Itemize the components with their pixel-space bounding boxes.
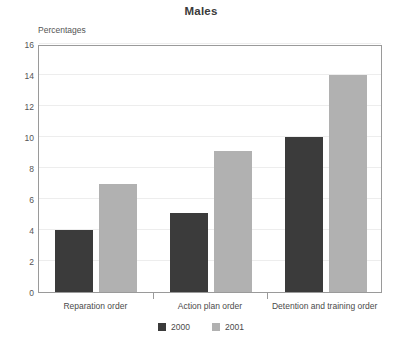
x-axis-tick: [267, 293, 268, 299]
y-axis-tick-label: 12: [4, 102, 34, 112]
y-axis-tick-label: 6: [4, 195, 34, 205]
bar-2001-2: [329, 75, 367, 292]
bar-2001-0: [99, 184, 137, 293]
y-axis-tick-label: 2: [4, 257, 34, 267]
legend-label: 2000: [171, 322, 190, 332]
y-axis-tick-labels: 0246810121416: [0, 45, 34, 293]
bar-2000-2: [285, 137, 323, 292]
y-axis-tick-label: 8: [4, 164, 34, 174]
chart-legend: 20002001: [0, 322, 402, 332]
x-axis-category-label: Detention and training order: [272, 301, 377, 311]
bar-2000-0: [55, 230, 93, 292]
legend-swatch-icon: [158, 323, 166, 331]
chart-title: Males: [0, 5, 402, 17]
y-axis-tick-label: 10: [4, 133, 34, 143]
y-axis-tick-label: 14: [4, 71, 34, 81]
x-axis-category-label: Action plan order: [178, 301, 242, 311]
bar-chart: Males Percentages 0246810121416 Reparati…: [0, 0, 402, 345]
y-axis-tick-label: 0: [4, 288, 34, 298]
x-axis-tick: [153, 293, 154, 299]
legend-item[interactable]: 2001: [212, 322, 244, 332]
bar-2000-1: [170, 213, 208, 292]
y-axis-tick-label: 16: [4, 40, 34, 50]
bar-2001-1: [214, 151, 252, 292]
y-axis-unit-label: Percentages: [38, 25, 86, 35]
x-axis-category-label: Reparation order: [63, 301, 127, 311]
legend-item[interactable]: 2000: [158, 322, 190, 332]
gridline: [39, 43, 381, 44]
legend-swatch-icon: [212, 323, 220, 331]
legend-label: 2001: [225, 322, 244, 332]
y-axis-tick-label: 4: [4, 226, 34, 236]
plot-area: [38, 45, 382, 293]
